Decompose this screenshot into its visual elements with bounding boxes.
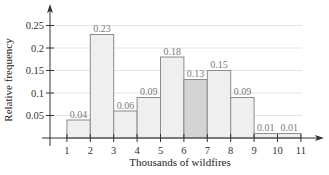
histogram-bar xyxy=(114,111,137,138)
bar-value-label: 0.15 xyxy=(210,59,228,70)
y-tick-label: 0.15 xyxy=(26,65,44,76)
histogram-bar xyxy=(67,120,90,138)
bar-value-label: 0.04 xyxy=(70,109,88,120)
y-axis-title: Relative frequency xyxy=(2,38,14,122)
bar-value-label: 0.09 xyxy=(234,86,252,97)
histogram-bar xyxy=(184,80,207,139)
histogram-bar xyxy=(161,57,184,138)
x-tick-label: 8 xyxy=(228,145,233,156)
histogram-bar xyxy=(90,35,113,139)
x-tick-label: 1 xyxy=(64,145,69,156)
bars: 0.040.230.060.090.180.130.150.090.010.01 xyxy=(67,23,301,138)
y-tick-label: 0.25 xyxy=(26,20,44,31)
histogram-chart: 0.040.230.060.090.180.130.150.090.010.01… xyxy=(0,0,329,175)
x-tick-label: 4 xyxy=(134,145,140,156)
x-tick-label: 2 xyxy=(88,145,93,156)
bar-value-label: 0.18 xyxy=(163,46,181,57)
x-tick-label: 9 xyxy=(251,145,256,156)
bar-value-label: 0.09 xyxy=(140,86,158,97)
x-tick-label: 10 xyxy=(272,145,283,156)
bar-value-label: 0.06 xyxy=(117,100,135,111)
histogram-bar xyxy=(137,98,160,139)
x-tick-label: 5 xyxy=(158,145,163,156)
y-tick-label: 0.1 xyxy=(31,88,44,99)
y-tick-label: 0.05 xyxy=(26,110,44,121)
x-tick-label: 3 xyxy=(111,145,116,156)
x-tick-label: 7 xyxy=(205,145,210,156)
histogram-bar xyxy=(278,134,301,139)
histogram-bar xyxy=(254,134,277,139)
x-axis-title: Thousands of wildfires xyxy=(129,156,230,168)
x-tick-label: 6 xyxy=(181,145,186,156)
histogram-bar xyxy=(207,71,230,139)
bar-value-label: 0.13 xyxy=(187,68,205,79)
bar-value-label: 0.01 xyxy=(257,122,275,133)
y-tick-label: 0.2 xyxy=(31,43,44,54)
bar-value-label: 0.01 xyxy=(280,122,298,133)
x-tick-label: 11 xyxy=(296,145,306,156)
bar-value-label: 0.23 xyxy=(93,23,111,34)
histogram-bar xyxy=(231,98,254,139)
